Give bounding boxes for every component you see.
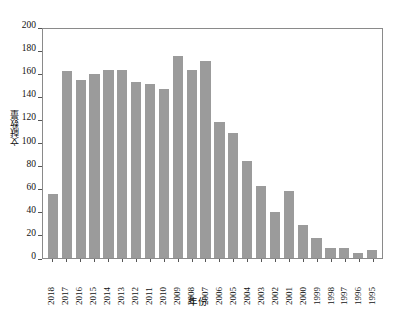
bar bbox=[311, 238, 321, 258]
x-tick-mark bbox=[136, 259, 137, 262]
y-tick-label: 0 bbox=[31, 252, 36, 262]
y-tick-label: 160 bbox=[22, 67, 36, 77]
chart-figure: 200180160140120100806040200 文献数量 2018201… bbox=[0, 0, 395, 318]
bar bbox=[76, 80, 86, 258]
bar-slot bbox=[74, 29, 88, 258]
bar bbox=[62, 71, 72, 258]
x-tick-mark bbox=[150, 259, 151, 262]
x-tick-mark bbox=[219, 259, 220, 262]
bar-slot bbox=[46, 29, 60, 258]
bar-slot bbox=[102, 29, 116, 258]
bar-slot bbox=[351, 29, 365, 258]
y-tick-label: 100 bbox=[22, 137, 36, 147]
bar-slot bbox=[157, 29, 171, 258]
x-tick-mark bbox=[247, 259, 248, 262]
y-tick-label: 180 bbox=[22, 44, 36, 54]
plot-area bbox=[42, 28, 383, 259]
bar-slot bbox=[213, 29, 227, 258]
bar-slot bbox=[143, 29, 157, 258]
bar bbox=[131, 82, 141, 258]
bar-slot bbox=[171, 29, 185, 258]
x-tick-mark bbox=[108, 259, 109, 262]
bar-slot bbox=[199, 29, 213, 258]
bar-slot bbox=[88, 29, 102, 258]
bar-slot bbox=[337, 29, 351, 258]
bar bbox=[284, 191, 294, 258]
bar bbox=[173, 56, 183, 258]
x-tick-mark bbox=[317, 259, 318, 262]
bar-slot bbox=[365, 29, 379, 258]
y-tick-label: 60 bbox=[27, 183, 37, 193]
x-tick-mark bbox=[261, 259, 262, 262]
bar-slot bbox=[324, 29, 338, 258]
x-tick-mark bbox=[275, 259, 276, 262]
x-tick-mark bbox=[345, 259, 346, 262]
x-tick-mark bbox=[122, 259, 123, 262]
x-tick-mark bbox=[192, 259, 193, 262]
x-tick-mark bbox=[205, 259, 206, 262]
x-tick-mark bbox=[94, 259, 95, 262]
bar bbox=[228, 133, 238, 258]
bar-slot bbox=[226, 29, 240, 258]
bar bbox=[200, 61, 210, 259]
bar bbox=[339, 248, 349, 258]
x-axis-title: 年份 bbox=[0, 294, 395, 308]
bar-slot bbox=[296, 29, 310, 258]
y-tick-label: 40 bbox=[27, 206, 37, 216]
y-axis-title: 文献数量 bbox=[9, 110, 23, 146]
x-tick-mark bbox=[66, 259, 67, 262]
y-tick-label: 20 bbox=[27, 229, 37, 239]
bar bbox=[48, 194, 58, 258]
bar-slot bbox=[129, 29, 143, 258]
bar-slot bbox=[310, 29, 324, 258]
x-tick-mark bbox=[52, 259, 53, 262]
x-tick-mark bbox=[164, 259, 165, 262]
bar bbox=[367, 250, 377, 258]
bar-slot bbox=[282, 29, 296, 258]
bar-slot bbox=[240, 29, 254, 258]
y-tick-label: 120 bbox=[22, 113, 36, 123]
bar bbox=[270, 212, 280, 258]
y-tick-label: 200 bbox=[22, 21, 36, 31]
x-tick-mark bbox=[303, 259, 304, 262]
bar bbox=[117, 70, 127, 258]
bar bbox=[187, 70, 197, 258]
y-tick-label: 140 bbox=[22, 90, 36, 100]
bar bbox=[256, 186, 266, 258]
bar-slot bbox=[60, 29, 74, 258]
bar bbox=[145, 84, 155, 258]
x-tick-mark bbox=[331, 259, 332, 262]
x-tick-mark bbox=[359, 259, 360, 262]
bar-slot bbox=[254, 29, 268, 258]
bar bbox=[353, 253, 363, 258]
bar-slot bbox=[185, 29, 199, 258]
x-tick-mark bbox=[373, 259, 374, 262]
x-tick-mark bbox=[233, 259, 234, 262]
bar bbox=[214, 122, 224, 258]
bar bbox=[159, 89, 169, 258]
x-tick-mark bbox=[178, 259, 179, 262]
bar bbox=[103, 70, 113, 258]
x-tick-mark bbox=[289, 259, 290, 262]
bar-series bbox=[43, 29, 382, 258]
bar bbox=[89, 74, 99, 258]
bar-slot bbox=[268, 29, 282, 258]
bar-slot bbox=[115, 29, 129, 258]
bar bbox=[242, 161, 252, 258]
bar bbox=[325, 248, 335, 258]
bar bbox=[298, 225, 308, 258]
y-tick-label: 80 bbox=[27, 160, 37, 170]
x-tick-mark bbox=[80, 259, 81, 262]
